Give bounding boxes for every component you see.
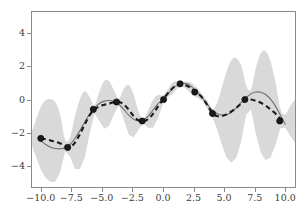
plot-area <box>31 11 295 188</box>
observation-point <box>113 99 119 105</box>
y-axis-tick-label: 0 <box>0 95 25 105</box>
observation-point <box>90 106 96 112</box>
observation-point <box>242 96 248 102</box>
observation-point <box>139 118 145 124</box>
observation-point <box>161 96 167 102</box>
y-axis-tick <box>27 100 31 101</box>
axis-spine-right <box>295 11 296 188</box>
y-axis-tick <box>27 33 31 34</box>
observation-point <box>38 135 44 141</box>
observation-point <box>177 81 183 87</box>
y-axis-tick <box>27 166 31 167</box>
plot-canvas <box>31 11 295 188</box>
x-axis-tick-label: 10.0 <box>265 193 305 203</box>
y-axis-tick-label: 2 <box>0 61 25 71</box>
observation-point <box>65 144 71 150</box>
gaussian-process-regression-chart: 420−2−4 −10.0−7.5−5.0−2.50.02.55.07.510.… <box>0 0 307 216</box>
y-axis-tick-label: 4 <box>0 28 25 38</box>
observation-point <box>192 89 198 95</box>
observation-point <box>209 110 215 116</box>
axis-spine-top <box>31 11 295 12</box>
observation-point <box>277 118 283 124</box>
y-axis-tick <box>27 133 31 134</box>
uncertainty-band-group <box>31 50 295 181</box>
uncertainty-band-2sigma <box>31 50 295 181</box>
y-axis-tick-label: −2 <box>0 128 25 138</box>
y-axis-tick-label: −4 <box>0 161 25 171</box>
y-axis-tick <box>27 66 31 67</box>
axis-spine-left <box>31 11 32 188</box>
